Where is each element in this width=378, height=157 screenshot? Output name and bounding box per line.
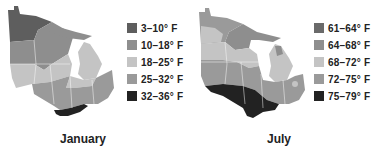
legend-label: 32–36° F [141, 91, 183, 102]
legend-label: 10–18° F [141, 40, 183, 51]
legend-swatch [314, 74, 324, 84]
legend-swatch [127, 40, 137, 50]
july-temperature-map [193, 4, 308, 119]
legend-item: 75–79° F [314, 88, 370, 104]
legend-label: 72–75° F [328, 74, 370, 85]
legend-item: 10–18° F [127, 37, 183, 53]
legend-item: 72–75° F [314, 71, 370, 87]
legend-swatch [314, 23, 324, 33]
legend-item: 61–64° F [314, 20, 370, 36]
legend-item: 64–68° F [314, 37, 370, 53]
legend-swatch [127, 57, 137, 67]
legend-swatch [314, 40, 324, 50]
legend-swatch [314, 91, 324, 101]
legend-item: 3–10° F [127, 20, 183, 36]
july-caption: July [267, 132, 291, 146]
legend-item: 68–72° F [314, 54, 370, 70]
legend-swatch [127, 74, 137, 84]
july-map-panel: 61–64° F 64–68° F 68–72° F 72–75° F 75–7… [189, 0, 378, 157]
legend-label: 25–32° F [141, 74, 183, 85]
legend-swatch [127, 23, 137, 33]
january-caption: January [60, 132, 106, 146]
legend-label: 61–64° F [328, 23, 370, 34]
january-temperature-map [4, 4, 119, 119]
january-legend: 3–10° F 10–18° F 18–25° F 25–32° F 32–36… [127, 20, 183, 105]
legend-item: 18–25° F [127, 54, 183, 70]
legend-swatch [127, 91, 137, 101]
legend-label: 68–72° F [328, 57, 370, 68]
legend-label: 75–79° F [328, 91, 370, 102]
legend-label: 64–68° F [328, 40, 370, 51]
january-map-panel: 3–10° F 10–18° F 18–25° F 25–32° F 32–36… [0, 0, 189, 157]
legend-label: 18–25° F [141, 57, 183, 68]
july-legend: 61–64° F 64–68° F 68–72° F 72–75° F 75–7… [314, 20, 370, 105]
legend-swatch [314, 57, 324, 67]
legend-item: 25–32° F [127, 71, 183, 87]
legend-label: 3–10° F [141, 23, 178, 34]
legend-item: 32–36° F [127, 88, 183, 104]
